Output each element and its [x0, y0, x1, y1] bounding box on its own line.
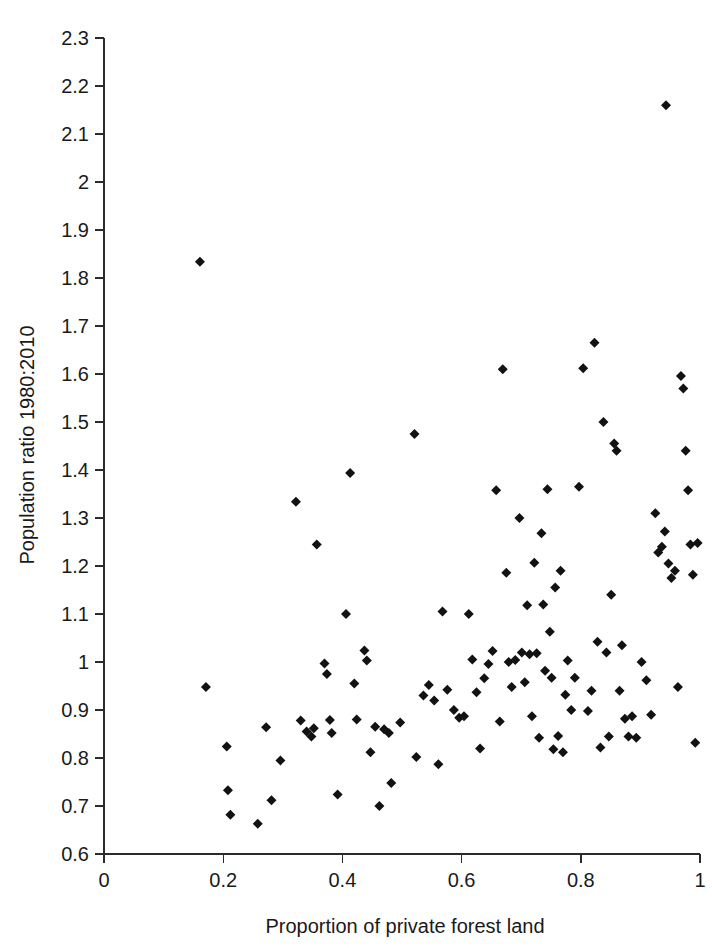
data-point [424, 680, 434, 690]
data-point [678, 383, 688, 393]
data-point [578, 363, 588, 373]
data-point [536, 528, 546, 538]
data-point [631, 733, 641, 743]
data-point [592, 637, 602, 647]
data-point [641, 675, 651, 685]
data-point [395, 717, 405, 727]
data-point [472, 687, 482, 697]
data-point [527, 711, 537, 721]
data-point [550, 583, 560, 593]
data-point [333, 789, 343, 799]
data-point [449, 705, 459, 715]
data-point [558, 747, 568, 757]
y-tick-label: 1 [78, 651, 89, 673]
data-point [275, 755, 285, 765]
data-point [362, 656, 372, 666]
y-tick-label: 0.9 [61, 699, 89, 721]
data-point [545, 627, 555, 637]
data-point [532, 648, 542, 658]
y-tick-label: 1.8 [61, 267, 89, 289]
data-point [370, 722, 380, 732]
data-point [650, 508, 660, 518]
data-point [598, 417, 608, 427]
data-point [623, 731, 633, 741]
data-point [322, 669, 332, 679]
data-points-group [195, 100, 703, 829]
data-point [529, 558, 539, 568]
data-point [438, 607, 448, 617]
data-point [570, 673, 580, 683]
axes-group: 0.60.70.80.911.11.21.31.41.51.61.71.81.9… [61, 27, 705, 891]
y-tick-label: 2 [78, 171, 89, 193]
data-point [467, 655, 477, 665]
x-tick-label: 0.4 [328, 869, 356, 891]
data-point [429, 695, 439, 705]
data-point [201, 682, 211, 692]
x-tick-label: 0 [98, 869, 109, 891]
y-tick-label: 2.3 [61, 27, 89, 49]
data-point [296, 716, 306, 726]
data-point [374, 801, 384, 811]
data-point [522, 600, 532, 610]
data-point [606, 590, 616, 600]
scatter-plot-figure: 0.60.70.80.911.11.21.31.41.51.61.71.81.9… [0, 0, 712, 948]
data-point [312, 539, 322, 549]
data-point [501, 568, 511, 578]
data-point [615, 686, 625, 696]
data-point [637, 657, 647, 667]
data-point [553, 731, 563, 741]
y-tick-label: 1.7 [61, 315, 89, 337]
data-point [548, 744, 558, 754]
y-tick-label: 0.8 [61, 747, 89, 769]
data-point [681, 446, 691, 456]
data-point [595, 742, 605, 752]
x-tick-label: 1 [694, 869, 705, 891]
data-point [498, 364, 508, 374]
data-point [540, 666, 550, 676]
data-point [590, 338, 600, 348]
data-point [325, 715, 335, 725]
data-point [495, 717, 505, 727]
data-point [442, 685, 452, 695]
data-point [583, 706, 593, 716]
data-point [663, 559, 673, 569]
data-point [661, 100, 671, 110]
x-tick-label: 0.6 [448, 869, 476, 891]
y-tick-label: 1.3 [61, 507, 89, 529]
data-point [560, 690, 570, 700]
data-point [507, 682, 517, 692]
data-point [538, 599, 548, 609]
x-tick-label: 0.8 [567, 869, 595, 891]
data-point [320, 658, 330, 668]
data-point [690, 738, 700, 748]
data-point [688, 570, 698, 580]
y-tick-label: 1.6 [61, 363, 89, 385]
data-point [520, 677, 530, 687]
data-point [563, 656, 573, 666]
y-tick-label: 1.9 [61, 219, 89, 241]
data-point [574, 482, 584, 492]
data-point [517, 647, 527, 657]
data-point [693, 538, 703, 548]
data-point [266, 795, 276, 805]
data-point [433, 759, 443, 769]
data-point [222, 741, 232, 751]
data-point [646, 710, 656, 720]
data-point [261, 722, 271, 732]
data-point [359, 645, 369, 655]
data-point [488, 646, 498, 656]
data-point [411, 752, 421, 762]
y-tick-label: 1.2 [61, 555, 89, 577]
data-point [352, 715, 362, 725]
x-tick-label: 0.2 [209, 869, 237, 891]
data-point [587, 686, 597, 696]
data-point [223, 785, 233, 795]
data-point [365, 747, 375, 757]
y-tick-label: 1.4 [61, 459, 89, 481]
data-point [410, 429, 420, 439]
data-point [291, 497, 301, 507]
data-point [566, 705, 576, 715]
data-point [673, 682, 683, 692]
y-tick-label: 0.6 [61, 843, 89, 865]
x-axis-title: Proportion of private forest land [265, 915, 544, 937]
